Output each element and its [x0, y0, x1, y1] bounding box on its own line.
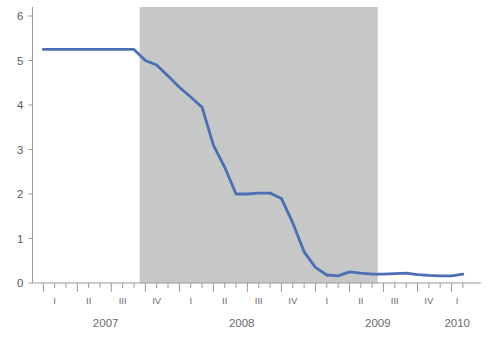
x-axis-quarter-label: I — [189, 295, 192, 306]
y-axis-tick-label: 5 — [17, 55, 23, 67]
shaded-band-group — [140, 7, 378, 283]
y-axis-tick-label: 6 — [17, 10, 23, 22]
y-axis-tick-label: 3 — [17, 144, 23, 156]
chart-container: 0123456IIIIIIIVIIIIIIIVIIIIIIIVI20072008… — [0, 0, 490, 343]
line-chart: 0123456IIIIIIIVIIIIIIIVIIIIIIIVI20072008… — [0, 0, 490, 343]
x-axis-quarter-label: IV — [424, 295, 434, 306]
x-axis-year-label: 2007 — [93, 317, 119, 329]
x-axis-quarter-label: IV — [288, 295, 298, 306]
y-axis-tick-label: 2 — [17, 188, 23, 200]
x-axis-quarter-label: I — [456, 295, 459, 306]
x-axis-quarter-label: III — [255, 295, 263, 306]
x-axis-quarter-label: I — [53, 295, 56, 306]
quarter-labels-group: IIIIIIIVIIIIIIIVIIIIIIIVI — [53, 295, 458, 306]
x-axis-quarter-label: II — [358, 295, 363, 306]
x-axis-quarter-label: III — [119, 295, 127, 306]
x-axis-year-label: 2010 — [444, 317, 470, 329]
x-axis-quarter-label: II — [86, 295, 91, 306]
recession-shading — [140, 7, 378, 283]
x-axis-quarter-label: IV — [152, 295, 162, 306]
y-axis-tick-label: 1 — [17, 233, 23, 245]
x-axis-quarter-label: I — [325, 295, 328, 306]
y-axis-tick-label: 4 — [17, 99, 24, 111]
x-axis-quarter-label: II — [222, 295, 227, 306]
x-axis-quarter-label: III — [391, 295, 399, 306]
x-axis-year-label: 2008 — [229, 317, 255, 329]
x-axis-year-label: 2009 — [365, 317, 391, 329]
y-axis-tick-label: 0 — [17, 277, 23, 289]
year-labels-group: 2007200820092010 — [93, 317, 470, 329]
x-axis-ticks-group — [43, 283, 463, 292]
